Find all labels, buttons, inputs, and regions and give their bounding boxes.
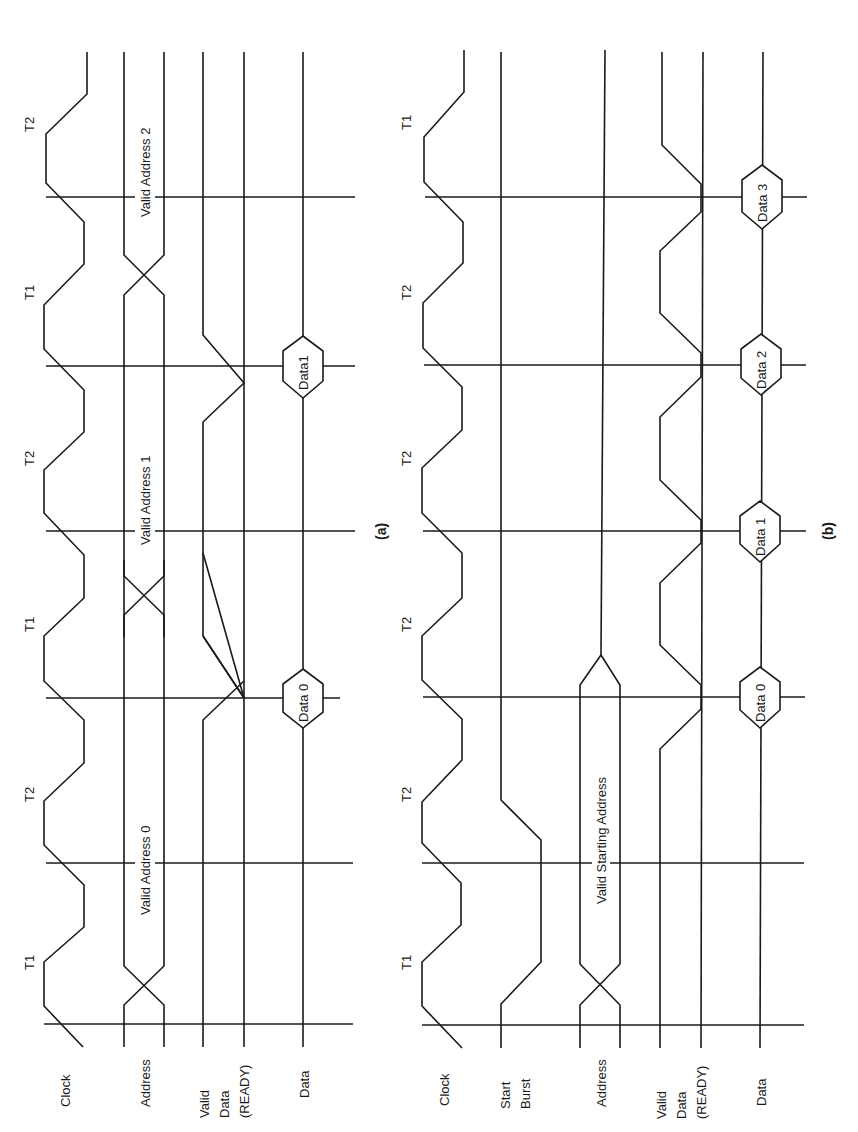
- signal-name-data: Data: [674, 1091, 689, 1119]
- signal-name-data-bus: Data: [754, 1078, 769, 1106]
- address-value-start: Valid Starting Address: [594, 777, 609, 904]
- data-value-0: Data 0: [296, 684, 311, 722]
- signal-name-data-bus: Data: [297, 1070, 312, 1098]
- address-value-1: Valid Address 1: [138, 456, 153, 545]
- cycle-label: T1: [22, 285, 37, 300]
- signal-name-start: Start: [498, 1081, 513, 1109]
- diagram-b-clock-signal: [422, 50, 464, 1048]
- diagram-a-cycle-labels: T1 T2 T1 T2 T1 T2: [22, 117, 37, 970]
- address-value-2: Valid Address 2: [138, 128, 153, 217]
- cycle-label: T2: [22, 451, 37, 466]
- signal-name-valid: Valid: [654, 1091, 669, 1119]
- data-value-1: Data 1: [753, 518, 768, 556]
- signal-name-clock: Clock: [58, 1074, 73, 1107]
- address-value-0: Valid Address 0: [138, 826, 153, 915]
- diagram-a-signal-names: Clock Address Valid Data (READY) Data: [58, 1059, 312, 1118]
- cycle-label: T1: [22, 955, 37, 970]
- signal-name-valid: Valid: [197, 1090, 212, 1118]
- signal-name-address: Address: [138, 1059, 153, 1107]
- diagram-a-data-signal: [283, 52, 323, 1047]
- signal-name-ready: (READY): [694, 1066, 709, 1119]
- diagram-b-caption: (b): [820, 522, 836, 540]
- diagram-b-signal-names: Clock Start Burst Address Valid Data (RE…: [437, 1059, 769, 1119]
- cycle-label: T1: [399, 955, 414, 970]
- data-value-1: Data1: [296, 355, 311, 390]
- signal-name-burst: Burst: [518, 1078, 533, 1109]
- diagram-b-address-labels: Valid Starting Address: [594, 777, 609, 904]
- signal-name-clock: Clock: [437, 1073, 452, 1106]
- diagram-b: Valid Starting Address Data 0 Data 1 Dat…: [399, 50, 836, 1119]
- data-value-2: Data 2: [754, 351, 769, 389]
- diagram-a-address-labels: Valid Address 0 Valid Address 1 Valid Ad…: [138, 128, 153, 915]
- data-value-0: Data 0: [753, 684, 768, 722]
- diagram-a-gridlines: [44, 197, 355, 1024]
- timing-diagram-figure: Valid Address 0 Valid Address 1 Valid Ad…: [0, 0, 858, 1132]
- cycle-label: T2: [399, 451, 414, 466]
- cycle-label: T2: [399, 787, 414, 802]
- diagram-b-gridlines: [422, 197, 807, 1025]
- signal-name-ready: (READY): [237, 1065, 252, 1118]
- data-value-3: Data 3: [755, 184, 770, 222]
- cycle-label: T1: [22, 617, 37, 632]
- signal-name-data: Data: [217, 1090, 232, 1118]
- diagram-b-ready-signal: [660, 52, 703, 1048]
- diagram-a-ready-signal: [203, 52, 244, 1047]
- cycle-label: T2: [22, 117, 37, 132]
- cycle-label: T2: [399, 617, 414, 632]
- diagram-b-start-burst-signal: [501, 52, 541, 1048]
- signal-name-address: Address: [594, 1059, 609, 1107]
- diagram-a-clock-signal: [44, 52, 87, 1047]
- cycle-label: T2: [399, 285, 414, 300]
- diagram-a-caption: (a): [373, 523, 389, 540]
- cycle-label: T2: [22, 787, 37, 802]
- diagram-a: Valid Address 0 Valid Address 1 Valid Ad…: [22, 52, 389, 1118]
- diagram-b-cycle-labels: T1 T2 T2 T2 T2 T1: [399, 115, 414, 970]
- cycle-label: T1: [399, 115, 414, 130]
